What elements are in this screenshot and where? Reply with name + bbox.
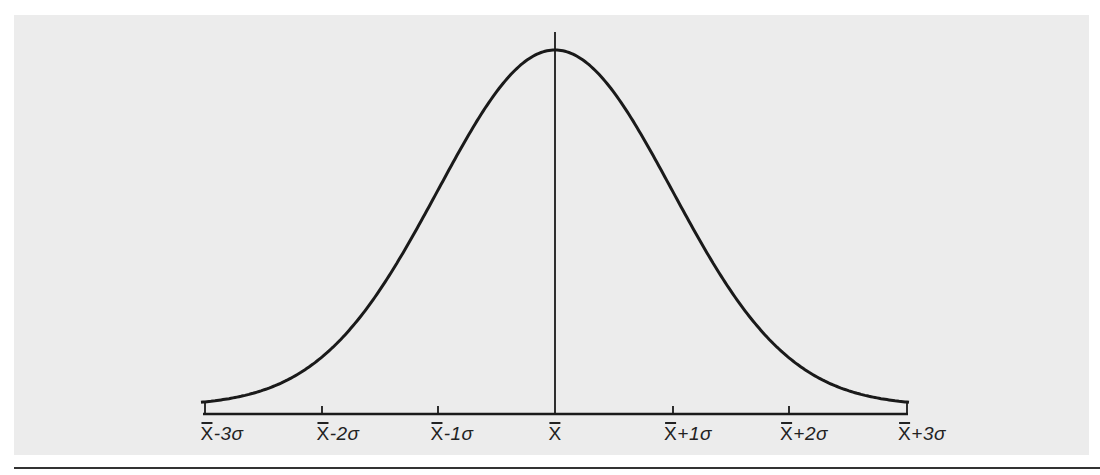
tick-label-plus-2sigma: X+2σ: [780, 423, 828, 445]
tick-label-plus-3sigma: X+3σ: [898, 423, 946, 445]
tick-label-minus-3sigma: X-3σ: [200, 423, 243, 445]
tick-label-plus-1sigma: X+1σ: [664, 423, 712, 445]
bottom-rule: [14, 467, 1100, 469]
axis-ticks: [205, 403, 907, 414]
normal-curve-chart: [0, 0, 1100, 475]
tick-label-minus-1sigma: X-1σ: [430, 423, 473, 445]
tick-label-minus-2sigma: X-2σ: [316, 423, 359, 445]
tick-label-mean: X: [548, 423, 561, 445]
